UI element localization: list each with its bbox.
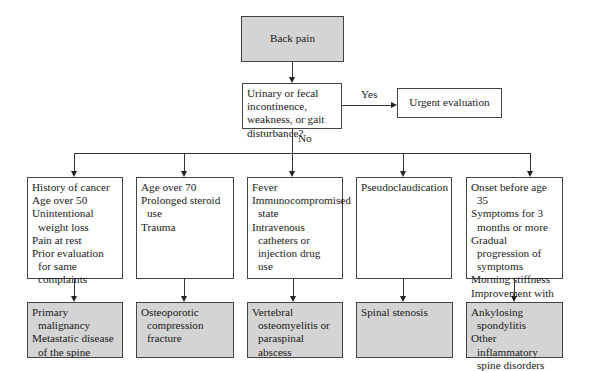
urgent-evaluation-node: Urgent evaluation [397, 88, 502, 118]
criteria-item: Age over 50 [32, 194, 118, 207]
diagnosis-box-malignancy: Primary malignancy Metastatic disease of… [27, 302, 123, 358]
yes-label: Yes [361, 88, 377, 100]
diagnosis-item: Spinal stenosis [361, 306, 448, 319]
criteria-item: History of cancer [32, 181, 118, 194]
decision-question: Urinary or fecal incontinence, weakness,… [247, 87, 324, 139]
criteria-box-infection: Fever Immunocompromised state Intravenou… [247, 177, 343, 279]
diagnosis-item: Other inflammatory spine disorders [471, 332, 558, 371]
back-pain-label: Back pain [270, 32, 315, 45]
criteria-item: Immunocompromised state [252, 194, 338, 220]
connector-start-decision [292, 62, 293, 77]
criteria-box-inflammatory: Onset before age 35 Symptoms for 3 month… [466, 177, 563, 279]
criteria-item: Intravenous catheters or injection drug … [252, 221, 338, 274]
criteria-item: Onset before age 35 [471, 181, 558, 207]
back-pain-node: Back pain [241, 16, 344, 62]
connector-col-5 [514, 279, 515, 296]
criteria-item: Fever [252, 181, 338, 194]
connector-col-3 [293, 279, 294, 296]
horizontal-bus [74, 153, 531, 154]
criteria-item: Prior evaluation for same complaints [32, 247, 118, 287]
connector-col-4 [403, 279, 404, 296]
connector-col-1 [74, 279, 75, 296]
drop-col-5 [530, 153, 531, 171]
urgent-evaluation-label: Urgent evaluation [409, 96, 489, 109]
no-label: No [298, 132, 312, 144]
connector-yes [342, 105, 391, 106]
criteria-item: Trauma [141, 221, 229, 234]
criteria-item: Gradual progression of symptoms [471, 234, 558, 274]
drop-col-4 [403, 153, 404, 171]
criteria-box-stenosis: Pseudoclaudication [356, 177, 452, 279]
criteria-item: Symptoms for 3 months or more [471, 207, 558, 233]
diagnosis-box-fracture: Osteoporotic compression fracture [136, 302, 234, 358]
criteria-box-fracture: Age over 70 Prolonged steroid use Trauma [136, 177, 234, 279]
drop-col-2 [184, 153, 185, 171]
decision-node: Urinary or fecal incontinence, weakness,… [242, 83, 342, 129]
criteria-item: Pseudoclaudication [361, 181, 447, 194]
connector-col-2 [184, 279, 185, 296]
diagnosis-box-osteomyelitis: Vertebral osteomyelitis or paraspinal ab… [247, 302, 343, 358]
criteria-box-cancer: History of cancer Age over 50 Unintentio… [27, 177, 123, 279]
diagnosis-item: Vertebral osteomyelitis or paraspinal ab… [252, 306, 338, 359]
drop-col-1 [74, 153, 75, 171]
diagnosis-item: Osteoporotic compression fracture [141, 306, 229, 346]
drop-col-3 [292, 153, 293, 171]
diagnosis-box-spondylitis: Ankylosing spondylitis Other inflammator… [466, 302, 563, 358]
criteria-item: Prolonged steroid use [141, 194, 229, 220]
criteria-item: Unintentional weight loss [32, 207, 118, 233]
diagnosis-item: Ankylosing spondylitis [471, 306, 558, 332]
criteria-item: Age over 70 [141, 181, 229, 194]
connector-no [292, 129, 293, 153]
diagnosis-box-stenosis: Spinal stenosis [356, 302, 453, 358]
criteria-item: Pain at rest [32, 234, 118, 247]
diagnosis-item: Primary malignancy [32, 306, 118, 332]
diagnosis-item: Metastatic disease of the spine [32, 332, 118, 358]
